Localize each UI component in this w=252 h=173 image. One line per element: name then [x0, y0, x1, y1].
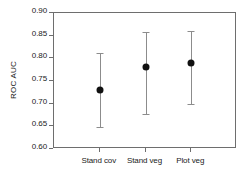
- x-tick-label: Stand veg: [127, 156, 162, 165]
- error-bar-cap-upper: [142, 32, 149, 33]
- x-tick-label: Plot veg: [176, 156, 204, 165]
- x-tick-mark: [99, 148, 100, 152]
- plot-area: [53, 12, 236, 148]
- error-bar-line: [146, 32, 147, 114]
- data-point-marker: [96, 86, 103, 93]
- y-tick-label: 0.70: [32, 97, 47, 106]
- error-bar-cap-upper: [188, 31, 195, 32]
- y-axis-tick: 0.60: [0, 148, 53, 149]
- y-axis-tick: 0.80: [0, 57, 53, 58]
- y-tick-label: 0.80: [32, 51, 47, 60]
- error-bar-cap-lower: [96, 127, 103, 128]
- error-bar-cap-upper: [96, 53, 103, 54]
- y-axis-tick: 0.70: [0, 103, 53, 104]
- y-tick-label: 0.90: [32, 6, 47, 15]
- y-tick-label: 0.85: [32, 29, 47, 38]
- data-point-marker: [142, 64, 149, 71]
- x-tick-mark: [145, 148, 146, 152]
- y-tick-label: 0.60: [32, 142, 47, 151]
- x-tick-mark: [190, 148, 191, 152]
- y-tick-mark: [49, 148, 53, 149]
- y-axis-tick: 0.90: [0, 12, 53, 13]
- y-tick-label: 0.75: [32, 74, 47, 83]
- data-point-marker: [188, 60, 195, 67]
- error-bar-cap-lower: [142, 114, 149, 115]
- y-axis-tick: 0.65: [0, 125, 53, 126]
- y-axis-tick: 0.75: [0, 80, 53, 81]
- y-tick-label: 0.65: [32, 119, 47, 128]
- roc-auc-error-bar-chart: ROC AUC 0.600.650.700.750.800.850.90 Sta…: [0, 0, 252, 173]
- x-tick-label: Stand cov: [81, 156, 116, 165]
- error-bar-line: [191, 31, 192, 104]
- y-axis-tick: 0.85: [0, 35, 53, 36]
- error-bar-cap-lower: [188, 104, 195, 105]
